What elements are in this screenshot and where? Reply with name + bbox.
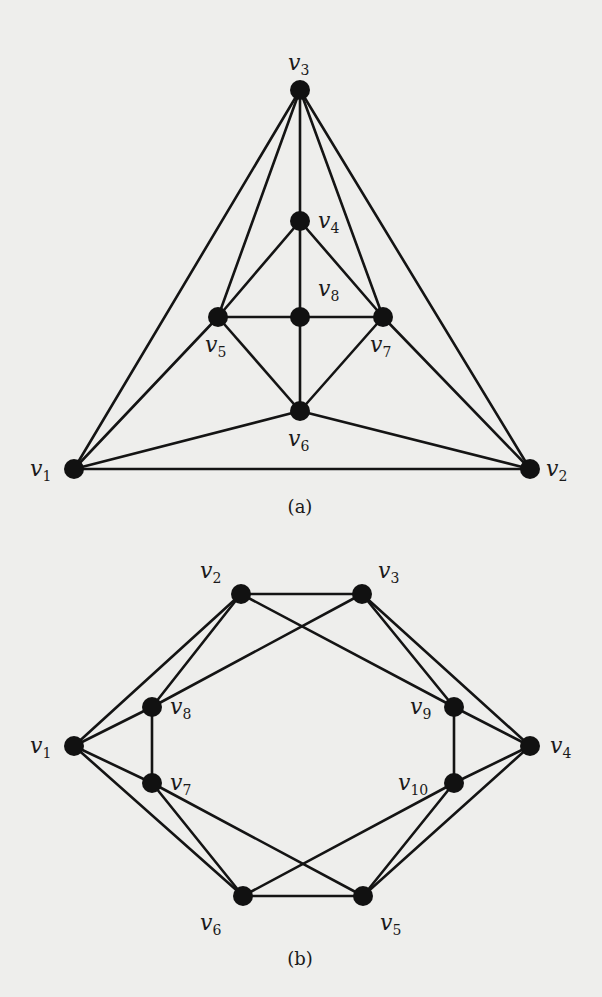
vertex-v8 [290,307,310,327]
vertex-label-v5: v5 [380,910,401,938]
edge-v2-v9 [241,594,454,707]
vertex-label-v5: v5 [205,332,226,360]
graph-a-nodes [64,80,540,479]
vertex-label-v7: v7 [170,770,191,798]
graph-a: v1v2v3v4v5v6v7v8 (a) [30,50,567,517]
edge-v5-v6 [218,317,300,411]
edge-v1-v6 [74,746,243,896]
vertex-label-v3: v3 [288,50,309,78]
vertex-v4 [520,736,540,756]
graph-b: v1v2v3v4v5v6v7v8v9v10 (b) [30,558,571,969]
vertex-label-v8: v8 [318,276,339,304]
vertex-label-v1: v1 [30,456,51,484]
vertex-v4 [290,211,310,231]
vertex-v3 [290,80,310,100]
vertex-v2 [520,459,540,479]
vertex-label-v8: v8 [170,694,191,722]
edge-v3-v9 [362,594,454,707]
edge-v4-v5 [363,746,530,896]
edge-v3-v5 [218,90,300,317]
edge-v7-v5 [152,783,363,896]
vertex-v10 [444,773,464,793]
edge-v10-v5 [363,783,454,896]
edge-v6-v1 [74,411,300,469]
edge-v3-v2 [300,90,530,469]
vertex-label-v2: v2 [546,456,567,484]
edge-v3-v7 [300,90,383,317]
vertex-label-v1: v1 [30,733,51,761]
graph-b-nodes [64,584,540,906]
edge-v6-v2 [300,411,530,469]
vertex-v2 [231,584,251,604]
vertex-v7 [373,307,393,327]
vertex-label-v4: v4 [550,733,571,761]
edge-v4-v10 [454,746,530,783]
vertex-label-v6: v6 [200,910,221,938]
vertex-v9 [444,697,464,717]
edge-v7-v6 [152,783,243,896]
edge-v3-v8 [152,594,362,707]
vertex-v5 [208,307,228,327]
vertex-v5 [353,886,373,906]
edge-v3-v4 [362,594,530,746]
vertex-label-v2: v2 [200,558,221,586]
graph-b-edges [74,594,530,896]
edge-v2-v1 [74,594,241,746]
vertex-v6 [290,401,310,421]
vertex-label-v7: v7 [370,332,391,360]
edge-v1-v8 [74,707,152,746]
edge-v10-v6 [243,783,454,896]
edge-v3-v1 [74,90,300,469]
graph-b-labels: v1v2v3v4v5v6v7v8v9v10 [30,558,571,938]
edge-v5-v1 [74,317,218,469]
edge-v4-v7 [300,221,383,317]
graph-figure: v1v2v3v4v5v6v7v8 (a) v1v2v3v4v5v6v7v8v9v… [0,0,602,997]
vertex-v8 [142,697,162,717]
vertex-v7 [142,773,162,793]
edge-v2-v8 [152,594,241,707]
vertex-v6 [233,886,253,906]
graph-a-caption: (a) [288,496,313,517]
graph-b-caption: (b) [287,948,313,969]
vertex-v1 [64,736,84,756]
vertex-label-v4: v4 [318,208,339,236]
vertex-label-v3: v3 [378,558,399,586]
edge-v4-v5 [218,221,300,317]
vertex-v1 [64,459,84,479]
vertex-label-v6: v6 [288,426,309,454]
vertex-label-v9: v9 [410,694,431,722]
vertex-v3 [352,584,372,604]
edge-v1-v7 [74,746,152,783]
vertex-label-v10: v10 [398,770,428,798]
edge-v7-v2 [383,317,530,469]
